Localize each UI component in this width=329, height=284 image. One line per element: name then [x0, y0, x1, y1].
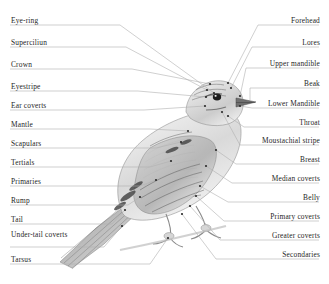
label-tarsus: Tarsus	[11, 256, 31, 265]
label-lores: Lores	[302, 39, 320, 48]
label-eyestripe: Eyestripe	[11, 83, 41, 92]
label-scapulars: Scapulars	[11, 140, 41, 149]
leader-eyestripe	[10, 91, 206, 97]
label-belly: Belly	[303, 194, 320, 203]
label-rump: Rump	[11, 197, 30, 206]
label-moustachial-stripe: Moustachial stripe	[262, 137, 320, 146]
label-median-coverts: Median coverts	[272, 175, 320, 184]
anchor-dots-group	[121, 82, 241, 239]
label-under-tail-coverts: Under-tail coverts	[11, 231, 71, 239]
leader-forehead	[228, 25, 319, 83]
label-tail: Tail	[11, 216, 23, 225]
label-breast: Breast	[300, 156, 320, 165]
label-ear-coverts: Ear coverts	[11, 102, 46, 111]
label-forehead: Forehead	[291, 17, 320, 26]
leader-tail	[10, 210, 125, 224]
label-primaries: Primaries	[11, 178, 41, 187]
label-mantle: Mantle	[11, 121, 33, 130]
leader-tarsus	[10, 238, 168, 264]
bird-anatomy-diagram: Eye-ring Superciliun Crown Eyestripe Ear…	[0, 0, 329, 284]
label-secondaries: Secondaries	[282, 251, 320, 260]
label-crown: Crown	[11, 61, 32, 70]
label-greater-coverts: Greater coverts	[272, 232, 320, 241]
label-tertials: Tertials	[11, 159, 35, 168]
leader-belly	[200, 186, 319, 202]
label-throat: Throat	[299, 119, 320, 128]
label-beak: Beak	[304, 80, 320, 89]
leader-mantle	[10, 129, 188, 131]
label-supercilium: Superciliun	[11, 39, 47, 48]
label-lower-mandible: Lower Mandible	[268, 100, 320, 109]
label-eye-ring: Eye-ring	[11, 17, 38, 26]
label-upper-mandible: Upper mandible	[270, 60, 320, 69]
label-primary-coverts: Primary coverts	[270, 213, 320, 222]
